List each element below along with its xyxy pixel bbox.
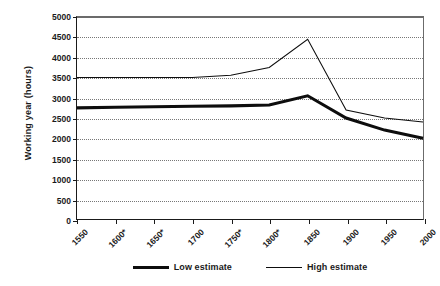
series-line-high-estimate [77, 39, 423, 122]
x-tick-label: 1600* [106, 227, 129, 250]
x-tick-label: 1550 [70, 227, 90, 247]
y-tick-label: 1000 [31, 175, 71, 185]
x-tick-mark [193, 219, 194, 224]
plot-area: 0500100015002000250030003500400045005000 [76, 16, 424, 220]
chart-legend: Low estimate High estimate [76, 262, 424, 272]
legend-item-low-estimate: Low estimate [133, 262, 232, 272]
series-line-low-estimate [77, 96, 423, 138]
y-tick-label: 2500 [31, 114, 71, 124]
x-tick-label: 1950 [379, 227, 399, 247]
x-tick-mark [154, 219, 155, 224]
x-tick-mark [232, 219, 233, 224]
legend-swatch-low-estimate [133, 266, 169, 269]
x-tick-mark [425, 219, 426, 224]
x-tick-label: 1750* [222, 227, 245, 250]
legend-label-low-estimate: Low estimate [174, 262, 232, 272]
chart-figure: Working year (hours) 0500100015002000250… [0, 0, 440, 286]
y-tick-label: 3000 [31, 94, 71, 104]
legend-swatch-high-estimate [266, 267, 302, 268]
y-tick-label: 3500 [31, 73, 71, 83]
x-tick-label: 1650* [145, 227, 168, 250]
x-tick-mark [77, 219, 78, 224]
y-tick-label: 2000 [31, 134, 71, 144]
x-tick-mark [270, 219, 271, 224]
y-tick-label: 0 [31, 216, 71, 226]
y-tick-label: 5000 [31, 12, 71, 22]
y-tick-label: 4000 [31, 53, 71, 63]
y-tick-label: 500 [31, 196, 71, 206]
legend-item-high-estimate: High estimate [266, 262, 367, 272]
x-tick-mark [309, 219, 310, 224]
x-tick-label: 2000 [418, 227, 438, 247]
y-tick-label: 4500 [31, 32, 71, 42]
series-lines [77, 17, 423, 219]
x-tick-mark [116, 219, 117, 224]
x-tick-label: 1900 [340, 227, 360, 247]
x-tick-label: 1700 [186, 227, 206, 247]
legend-label-high-estimate: High estimate [307, 262, 367, 272]
x-tick-mark [386, 219, 387, 224]
y-tick-label: 1500 [31, 155, 71, 165]
x-tick-label: 1850 [302, 227, 322, 247]
x-tick-mark [348, 219, 349, 224]
x-tick-label: 1800* [261, 227, 284, 250]
